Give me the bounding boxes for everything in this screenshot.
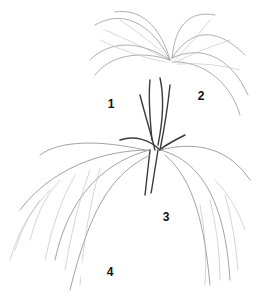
label-2: 2	[198, 89, 205, 103]
label-1: 1	[108, 97, 115, 111]
label-4: 4	[107, 265, 114, 279]
palm-drawing	[0, 0, 256, 302]
label-3: 3	[163, 210, 170, 224]
palm-illustration: 1 2 3 4	[0, 0, 256, 302]
